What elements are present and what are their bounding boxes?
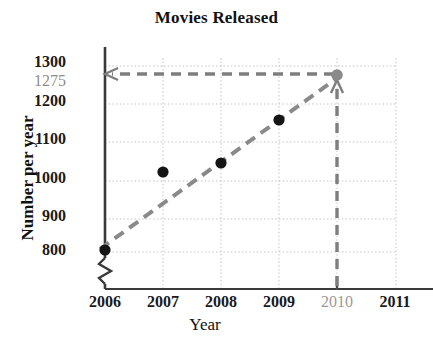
projected-data-point-2010[interactable]: [331, 69, 343, 81]
data-point-2009[interactable]: [273, 114, 284, 125]
horizontal-guide-arrowhead-left: [105, 68, 118, 80]
vertical-gridlines: [163, 58, 396, 288]
data-point-2008[interactable]: [215, 157, 226, 168]
chart-container: Movies Released Number per year Year 130…: [0, 0, 433, 339]
horizontal-gridlines: [105, 66, 396, 252]
data-point-2007[interactable]: [157, 166, 168, 177]
plot-area: [0, 0, 433, 339]
y-axis-break-icon: [99, 258, 111, 284]
data-point-2006[interactable]: [99, 244, 110, 255]
